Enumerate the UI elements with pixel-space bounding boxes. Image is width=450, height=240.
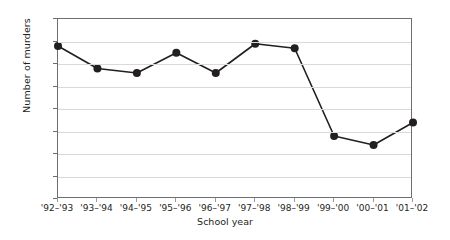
x-axis-title: School year bbox=[0, 216, 450, 227]
gridline bbox=[58, 132, 411, 133]
y-axis-tick-mark bbox=[53, 86, 57, 87]
gridline bbox=[58, 64, 411, 65]
data-point-marker bbox=[330, 132, 338, 140]
data-point-marker bbox=[409, 119, 417, 127]
data-point-marker bbox=[133, 69, 141, 77]
gridline bbox=[58, 87, 411, 88]
x-axis-tick-mark bbox=[136, 198, 137, 202]
y-axis-tick-mark bbox=[53, 153, 57, 154]
data-point-marker bbox=[291, 44, 299, 52]
data-point-marker bbox=[370, 141, 378, 149]
x-axis-tick-mark bbox=[294, 198, 295, 202]
y-axis-tick-mark bbox=[53, 18, 57, 19]
y-axis-tick-mark bbox=[53, 41, 57, 42]
gridline bbox=[58, 109, 411, 110]
x-axis-tick-label: '01–'02 bbox=[382, 203, 442, 213]
gridline bbox=[58, 42, 411, 43]
data-point-marker bbox=[212, 69, 220, 77]
data-point-marker bbox=[54, 42, 62, 50]
line-chart: Number of murders 0510152025303540 '92–'… bbox=[0, 0, 450, 240]
y-axis-tick-mark bbox=[53, 176, 57, 177]
x-axis-tick-mark bbox=[175, 198, 176, 202]
x-axis-tick-mark bbox=[254, 198, 255, 202]
x-axis-tick-mark bbox=[373, 198, 374, 202]
gridline bbox=[58, 177, 411, 178]
data-line bbox=[58, 44, 413, 145]
y-axis-tick-mark bbox=[53, 108, 57, 109]
gridline bbox=[58, 154, 411, 155]
y-axis-tick-mark bbox=[53, 131, 57, 132]
x-axis-tick-mark bbox=[96, 198, 97, 202]
x-axis-tick-mark bbox=[57, 198, 58, 202]
y-axis-tick-mark bbox=[53, 63, 57, 64]
y-axis-title: Number of murders bbox=[21, 0, 32, 136]
data-point-marker bbox=[172, 49, 180, 57]
x-axis-tick-mark bbox=[215, 198, 216, 202]
data-point-marker bbox=[93, 65, 101, 73]
x-axis-tick-mark bbox=[412, 198, 413, 202]
plot-area bbox=[57, 18, 412, 198]
x-axis-tick-mark bbox=[333, 198, 334, 202]
